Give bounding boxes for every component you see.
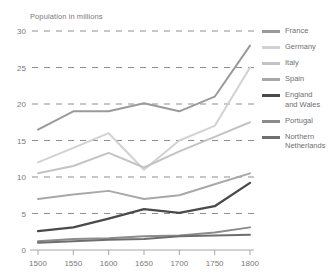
series-line-germany xyxy=(38,68,250,170)
legend-label: Northern Netherlands xyxy=(285,132,325,151)
legend-swatch-icon xyxy=(262,30,280,33)
y-tick-label: 0 xyxy=(22,246,27,255)
chart-legend: FranceGermanyItalySpainEngland and Wales… xyxy=(262,26,330,157)
y-tick-label: 30 xyxy=(17,27,26,36)
legend-swatch-icon xyxy=(262,136,280,139)
legend-swatch-icon xyxy=(262,120,280,123)
series-line-italy xyxy=(38,122,250,173)
x-tick-labels: 1500155016001650170017501800 xyxy=(29,259,259,268)
legend-item-italy[interactable]: Italy xyxy=(262,58,330,68)
legend-item-northern-netherlands[interactable]: Northern Netherlands xyxy=(262,132,330,151)
legend-swatch-icon xyxy=(262,62,280,65)
x-tick-label: 1750 xyxy=(206,259,224,268)
legend-label: England and Wales xyxy=(285,90,320,109)
y-tick-labels: 051015202530 xyxy=(17,27,26,255)
legend-item-germany[interactable]: Germany xyxy=(262,42,330,52)
legend-label: Spain xyxy=(285,74,304,84)
series-line-england-and-wales xyxy=(38,183,250,231)
y-tick-label: 5 xyxy=(22,210,27,219)
legend-item-france[interactable]: France xyxy=(262,26,330,36)
x-tick-label: 1550 xyxy=(64,259,82,268)
legend-label: Portugal xyxy=(285,116,313,126)
legend-label: France xyxy=(285,26,308,36)
x-tick-label: 1500 xyxy=(29,259,47,268)
legend-item-portugal[interactable]: Portugal xyxy=(262,116,330,126)
legend-label: Italy xyxy=(285,58,299,68)
x-tick-label: 1600 xyxy=(100,259,118,268)
legend-label: Germany xyxy=(285,42,316,52)
axes-group xyxy=(30,250,254,255)
gridlines-group xyxy=(32,31,254,214)
x-tick-label: 1650 xyxy=(135,259,153,268)
y-tick-label: 20 xyxy=(17,100,26,109)
legend-swatch-icon xyxy=(262,78,280,81)
y-tick-label: 10 xyxy=(17,173,26,182)
legend-swatch-icon xyxy=(262,46,280,49)
x-tick-label: 1700 xyxy=(170,259,188,268)
legend-item-england-and-wales[interactable]: England and Wales xyxy=(262,90,330,109)
series-line-france xyxy=(38,46,250,130)
legend-swatch-icon xyxy=(262,94,280,97)
y-tick-label: 25 xyxy=(17,64,26,73)
y-tick-label: 15 xyxy=(17,137,26,146)
x-tick-label: 1800 xyxy=(241,259,259,268)
legend-item-spain[interactable]: Spain xyxy=(262,74,330,84)
chart-container: Population in millions 051015202530 1500… xyxy=(0,0,330,279)
